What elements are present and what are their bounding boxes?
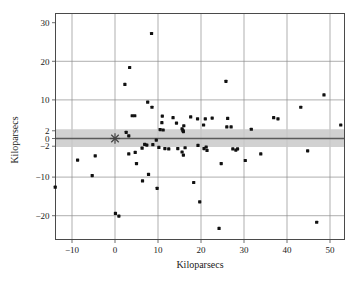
data-point [150,32,153,35]
data-point [196,117,199,120]
data-point [146,101,149,104]
data-point [133,114,136,117]
data-point [128,66,131,69]
data-point [163,147,166,150]
data-point [150,106,153,109]
data-point [202,123,205,126]
data-point [135,162,138,165]
data-point [205,149,208,152]
data-point [276,117,279,120]
data-point [236,147,239,150]
x-tick-label: 50 [326,245,336,255]
x-tick-label: 10 [154,245,164,255]
data-point [140,147,143,150]
data-point [198,200,201,203]
data-point [125,131,128,134]
data-point [205,145,208,148]
y-tick-label: −20 [35,211,50,221]
data-point [189,115,192,118]
data-point [114,212,117,215]
x-tick-label: −10 [65,245,80,255]
data-point [156,187,159,190]
x-tick-label: 40 [283,245,293,255]
data-point [94,154,97,157]
data-point [155,138,158,141]
y-tick-label: 20 [41,57,51,67]
plot-frame [56,14,345,240]
data-point [315,221,318,224]
data-point [250,128,253,131]
x-tick-label: 30 [240,245,250,255]
data-point [204,117,207,120]
data-point [322,93,325,96]
data-point [162,128,165,131]
data-point [231,147,234,150]
data-point [141,179,144,182]
grid-lines-group [56,14,345,240]
x-tick-label: 0 [113,245,118,255]
data-point [192,181,195,184]
data-point [244,159,247,162]
y-tick-label: −10 [35,172,50,182]
y-tick-label: −2 [40,141,50,151]
data-point [160,121,163,124]
y-axis-title: Kiloparsecs [9,116,20,163]
y-tick-label: 30 [41,18,51,28]
data-point [161,115,164,118]
data-point [123,83,126,86]
data-point [272,116,275,119]
data-point [145,143,148,146]
data-point [226,117,229,120]
data-point [196,144,199,147]
data-point [147,173,150,176]
x-tick-label: 20 [197,245,207,255]
shaded-band-group [56,129,345,147]
data-point [182,130,185,133]
data-point [134,151,137,154]
x-axis-title: Kiloparsecs [176,259,223,270]
data-point [180,150,183,153]
data-point [230,125,233,128]
data-point [225,125,228,128]
data-point [183,146,186,149]
data-point [339,123,342,126]
data-point [157,146,160,149]
origin-star-marker [110,133,120,143]
data-point [167,147,170,150]
data-point [54,186,57,189]
data-point [127,134,130,137]
data-point [182,124,185,127]
data-point [159,128,162,131]
data-point [127,152,130,155]
data-point [91,174,94,177]
data-point [151,143,154,146]
data-point [176,147,179,150]
x-axis-tick-labels: −1001020304050 [65,240,335,255]
data-point [217,227,220,230]
y-tick-label: 10 [41,95,51,105]
data-point [224,80,227,83]
data-point [220,162,223,165]
data-point [76,159,79,162]
data-point [259,152,262,155]
data-point [299,106,302,109]
data-point [175,121,178,124]
data-point [182,154,185,157]
data-point [306,149,309,152]
data-point [171,116,174,119]
scatter-plot-figure: −1001020304050 30201020−2−10−20 Kilopars… [0,0,355,282]
data-point [211,116,214,119]
plot-canvas: −1001020304050 30201020−2−10−20 Kilopars… [0,0,355,282]
data-point [117,214,120,217]
y-axis-tick-labels: 30201020−2−10−20 [35,18,55,221]
